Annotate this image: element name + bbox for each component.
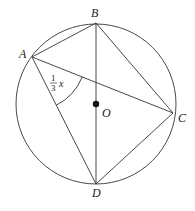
segment-da [32, 57, 96, 184]
label-a: A [18, 47, 27, 61]
label-d: D [91, 186, 101, 200]
segment-cd [96, 113, 173, 184]
label-b: B [91, 6, 99, 20]
segment-bc [96, 23, 173, 113]
center-dot [93, 101, 99, 107]
angle-label: 1 3 x [50, 73, 64, 93]
geometry-diagram: A B C D O 1 3 x [0, 0, 195, 211]
label-c: C [178, 111, 187, 125]
angle-label-denominator: 3 [51, 83, 56, 93]
segment-ab [32, 23, 96, 57]
angle-label-variable: x [58, 78, 64, 89]
angle-label-numerator: 1 [51, 73, 56, 83]
label-o: O [102, 106, 111, 120]
